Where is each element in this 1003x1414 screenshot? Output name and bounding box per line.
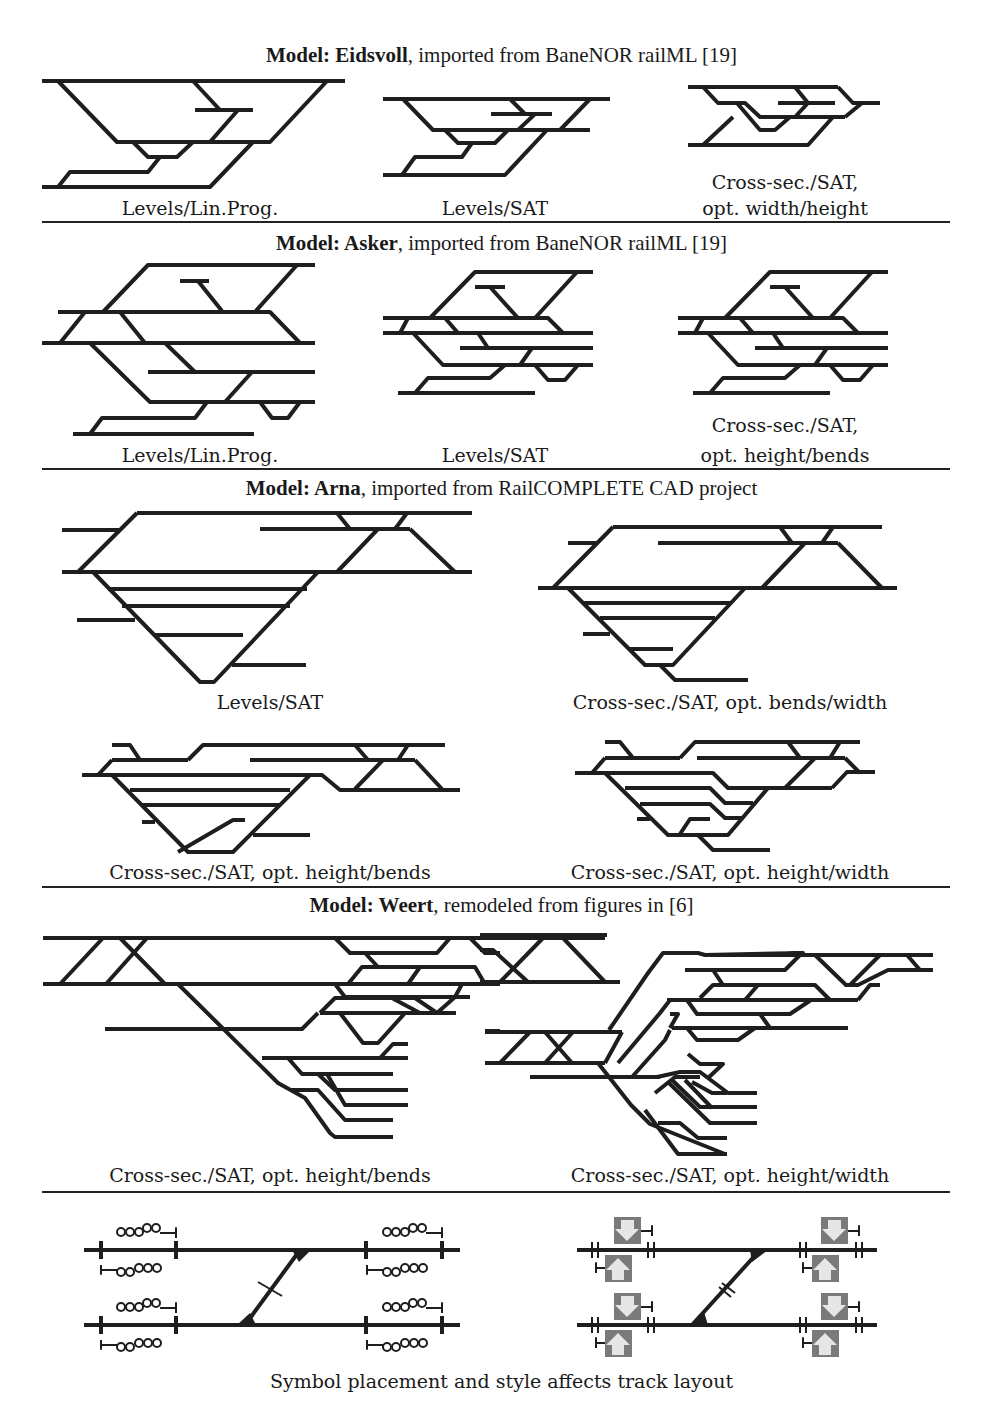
diagram-arna-crosssec-bends-width [538, 527, 897, 680]
signal-icon-down [367, 1339, 427, 1351]
track-diagrams-canvas [0, 0, 1003, 1414]
diagram-arna-crosssec-height-width [575, 742, 875, 850]
signal-icon-up [383, 1299, 442, 1313]
diagram-eidsvoll-levels-linprog [42, 81, 345, 187]
signal-icon-arrow-down [821, 1293, 859, 1320]
signal-icon-arrow-up [803, 1330, 839, 1357]
diagram-arna-levels-sat [62, 513, 472, 682]
signal-icon-up [117, 1299, 176, 1313]
diagram-asker-crosssec [678, 272, 888, 393]
diagram-symbol-placement-left [84, 1224, 460, 1351]
diagram-asker-levels-sat [383, 272, 593, 393]
signal-icon-arrow-down [821, 1217, 859, 1244]
diagram-asker-levels-linprog [42, 265, 315, 434]
signal-icon-arrow-up [803, 1255, 839, 1282]
diagram-weert-right-edge-stubs [485, 1031, 500, 1063]
diagram-eidsvoll-crosssec [688, 87, 880, 145]
signal-icon-arrow-down [614, 1293, 652, 1320]
signal-icon-arrow-up [596, 1255, 632, 1282]
diagram-weert-crosssec-height-bends [43, 938, 605, 1137]
signal-icon-up [383, 1224, 442, 1238]
diagram-eidsvoll-levels-sat [383, 99, 610, 175]
signal-icon-down [101, 1339, 161, 1351]
signal-icon-down [367, 1264, 427, 1276]
diagram-arna-crosssec-height-bends [82, 745, 460, 852]
signal-icon-down [101, 1264, 161, 1276]
signal-icon-up [117, 1224, 176, 1238]
diagram-weert-crosssec-height-width [480, 935, 933, 1154]
diagram-symbol-placement-right [577, 1217, 877, 1357]
signal-icon-arrow-up [596, 1330, 632, 1357]
signal-icon-arrow-down [614, 1217, 652, 1244]
